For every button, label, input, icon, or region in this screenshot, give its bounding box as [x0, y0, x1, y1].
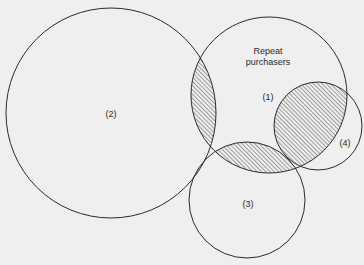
- hatched-intersections: [6, 8, 362, 258]
- circle-3-label: (3): [243, 199, 254, 210]
- circle-4-label: (4): [340, 138, 351, 149]
- venn-diagram: Repeat purchasers (1) (2) (3) (4): [0, 0, 364, 265]
- caption-line-1: Repeat: [246, 46, 291, 57]
- circle-1-label: (1): [263, 92, 274, 103]
- circle-2-label: (2): [106, 109, 117, 120]
- caption-line-2: purchasers: [246, 57, 291, 68]
- repeat-purchasers-caption: Repeat purchasers: [246, 46, 291, 68]
- venn-svg: [0, 0, 364, 265]
